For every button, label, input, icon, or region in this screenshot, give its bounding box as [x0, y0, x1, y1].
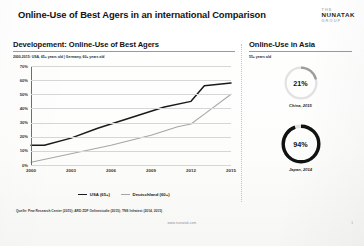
- legend-label: USA (65+): [90, 192, 110, 197]
- nunatak-logo: THE NUNATAK GROUP: [321, 8, 355, 23]
- x-axis-tick-label: 2006: [98, 168, 124, 173]
- left-panel-rule: [13, 51, 235, 52]
- panel-divider: [241, 44, 242, 202]
- y-axis-tick-label: 60%: [13, 78, 28, 83]
- page-number: 1: [351, 221, 353, 225]
- x-axis-tick-label: 2015: [218, 168, 244, 173]
- y-axis-tick-label: 30%: [13, 120, 28, 125]
- y-axis-tick-label: 50%: [13, 92, 28, 97]
- chart-line-germany: [31, 94, 231, 162]
- right-panel-title: Online-Use in Asia: [249, 40, 352, 49]
- grid-line: [31, 151, 231, 152]
- right-panel-subtitle: 55+ years old: [249, 55, 352, 59]
- grid-line: [31, 165, 231, 166]
- legend-item-usa: USA (65+): [78, 192, 110, 197]
- left-panel: Developement: Online-Use of Best Agers 2…: [13, 40, 235, 208]
- chart-legend: USA (65+)Deutschland (60+): [13, 192, 235, 197]
- x-axis-tick-label: 2000: [18, 168, 44, 173]
- website-footer: www.nunatak.com: [0, 221, 364, 225]
- y-axis-tick-label: 20%: [13, 134, 28, 139]
- donut-ring: 21%: [284, 66, 318, 100]
- logo-line-group: GROUP: [321, 19, 355, 23]
- grid-line: [31, 123, 231, 124]
- y-axis-tick-label: 0%: [13, 163, 28, 168]
- grid-line: [31, 80, 231, 81]
- left-panel-subtitle: 2000-2015: USA, 65+ years old | Germany,…: [13, 55, 235, 59]
- x-axis-tick-label: 2012: [178, 168, 204, 173]
- x-axis-tick-label: 2009: [138, 168, 164, 173]
- grid-line: [31, 108, 231, 109]
- donut-value-label: 21%: [284, 66, 318, 100]
- left-panel-title: Developement: Online-Use of Best Agers: [13, 40, 235, 49]
- donut-caption: Japan, 2014: [249, 167, 352, 172]
- donut-japan: 94%Japan, 2014: [249, 124, 352, 172]
- x-axis-tick-label: 2003: [58, 168, 84, 173]
- y-axis-tick-label: 70%: [13, 64, 28, 69]
- donut-caption: China, 2015: [249, 103, 352, 108]
- line-chart: 0%10%20%30%40%50%60%70%20002003200620092…: [13, 64, 235, 182]
- y-axis-tick-label: 40%: [13, 106, 28, 111]
- y-axis-tick-label: 10%: [13, 148, 28, 153]
- legend-label: Deutschland (60+): [133, 192, 170, 197]
- donut-china: 21%China, 2015: [249, 66, 352, 108]
- right-panel-rule: [249, 51, 352, 52]
- donut-ring: 94%: [281, 124, 321, 164]
- legend-item-germany: Deutschland (60+): [121, 192, 170, 197]
- legend-swatch: [121, 194, 130, 195]
- slide-page: Online-Use of Best Agers in an internati…: [0, 0, 364, 246]
- page-title: Online-Use of Best Agers in an internati…: [18, 9, 356, 20]
- legend-swatch: [78, 194, 87, 196]
- donut-value-label: 94%: [281, 124, 321, 164]
- grid-line: [31, 66, 231, 67]
- page-header: Online-Use of Best Agers in an internati…: [18, 9, 356, 35]
- grid-line: [31, 94, 231, 95]
- source-note: Quelle: Pew Research Center (2015); ARD …: [16, 209, 162, 213]
- right-panel: Online-Use in Asia 55+ years old 21%Chin…: [249, 40, 352, 208]
- grid-line: [31, 137, 231, 138]
